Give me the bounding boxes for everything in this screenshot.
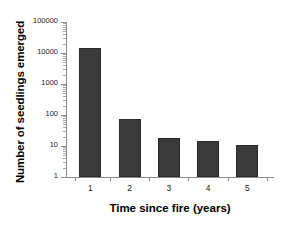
y-minor-tick <box>63 124 66 125</box>
bar-year-5 <box>236 145 258 177</box>
y-minor-tick <box>63 131 66 132</box>
y-minor-tick <box>63 31 66 32</box>
x-tick <box>267 177 268 181</box>
y-minor-tick <box>63 168 66 169</box>
y-minor-tick <box>63 69 66 70</box>
y-tick-label: 1000 <box>41 78 58 87</box>
y-minor-tick <box>63 100 66 101</box>
plot-area: 110100100010000100000 12345 <box>66 22 274 177</box>
y-minor-tick <box>63 38 66 39</box>
y-minor-tick <box>63 65 66 66</box>
y-minor-tick <box>63 91 66 92</box>
y-tick-label: 10000 <box>37 47 58 56</box>
bar-year-1 <box>79 48 101 177</box>
x-tick-label-5: 5 <box>227 183 267 193</box>
y-axis-title: Number of seedlings emerged <box>14 12 26 192</box>
x-tick <box>149 177 150 181</box>
y-tick-1: 1 <box>61 177 66 178</box>
y-minor-tick <box>63 116 66 117</box>
bar-year-2 <box>119 119 141 177</box>
x-tick-label-4: 4 <box>188 183 228 193</box>
y-minor-tick <box>63 89 66 90</box>
y-minor-tick <box>63 60 66 61</box>
y-tick-label: 100000 <box>33 16 58 25</box>
x-tick-label-2: 2 <box>110 183 150 193</box>
bar-year-3 <box>158 138 180 177</box>
y-minor-tick <box>63 93 66 94</box>
y-minor-tick <box>63 29 66 30</box>
x-tick <box>75 177 76 181</box>
y-minor-tick <box>63 153 66 154</box>
y-minor-tick <box>63 122 66 123</box>
y-minor-tick <box>63 127 66 128</box>
y-minor-tick <box>63 27 66 28</box>
y-minor-tick <box>63 149 66 150</box>
y-minor-tick <box>63 58 66 59</box>
x-tick <box>228 177 229 181</box>
y-minor-tick <box>63 162 66 163</box>
y-minor-tick <box>63 118 66 119</box>
y-minor-tick <box>63 34 66 35</box>
y-minor-tick <box>63 56 66 57</box>
y-minor-tick <box>63 147 66 148</box>
y-tick-label: 1 <box>54 171 58 180</box>
x-axis-title: Time since fire (years) <box>55 202 285 214</box>
y-minor-tick <box>63 137 66 138</box>
x-tick <box>110 177 111 181</box>
y-tick-label: 100 <box>45 109 58 118</box>
y-minor-tick <box>63 87 66 88</box>
y-minor-tick <box>63 75 66 76</box>
y-minor-tick <box>63 106 66 107</box>
x-tick <box>188 177 189 181</box>
x-tick-label-1: 1 <box>70 183 110 193</box>
y-tick-label: 10 <box>50 140 58 149</box>
bar-year-4 <box>197 141 219 177</box>
y-minor-tick <box>63 96 66 97</box>
y-minor-tick <box>63 54 66 55</box>
x-axis-line <box>66 177 274 178</box>
figure-canvas: Number of seedlings emerged 110100100010… <box>0 0 299 227</box>
y-minor-tick <box>63 23 66 24</box>
x-tick-label-3: 3 <box>149 183 189 193</box>
y-minor-tick <box>63 155 66 156</box>
y-minor-tick <box>63 151 66 152</box>
y-minor-tick <box>63 44 66 45</box>
y-minor-tick <box>63 25 66 26</box>
y-minor-tick <box>63 158 66 159</box>
y-minor-tick <box>63 85 66 86</box>
y-axis-line <box>66 22 67 177</box>
y-minor-tick <box>63 120 66 121</box>
y-minor-tick <box>63 62 66 63</box>
